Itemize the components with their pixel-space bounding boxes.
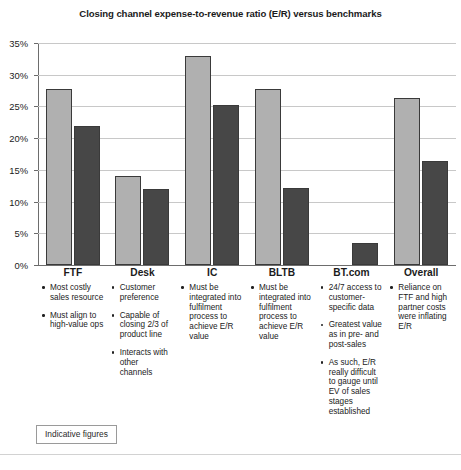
list-item: Must be integrated into fulfilment proce… xyxy=(251,283,313,342)
chart-plot-area: 0%5%10%15%20%25%30%35% xyxy=(0,43,461,265)
y-axis-tick-label: 35% xyxy=(9,39,28,48)
x-axis-label-bt-com: BT.com xyxy=(317,267,387,279)
list-item-label: Reliance on FTF and high partner costs w… xyxy=(398,283,452,332)
bar xyxy=(394,98,420,265)
list-item-label: Interacts with other channels xyxy=(120,348,174,377)
list-item-label: As such, E/R really difficult to gauge u… xyxy=(329,358,383,417)
bar xyxy=(74,126,100,265)
bottom-divider xyxy=(0,454,461,455)
bar xyxy=(255,89,281,265)
bullet-icon xyxy=(251,286,254,289)
x-axis-label-bltb: BLTB xyxy=(247,267,317,279)
bullet-icon xyxy=(112,351,115,354)
bar xyxy=(46,89,72,265)
list-item-label: Customer preference xyxy=(120,283,174,303)
list-item: Greatest value as in pre- and post-sales xyxy=(321,320,383,349)
bar xyxy=(143,189,169,265)
notes-column-ic: Must be integrated into fulfilment proce… xyxy=(181,283,243,350)
bar-group xyxy=(247,43,317,265)
y-axis-tick-label: 30% xyxy=(9,70,28,79)
x-axis-baseline xyxy=(38,265,456,266)
list-item: Capable of closing 2/3 of product line xyxy=(112,311,174,340)
bars-container xyxy=(38,43,456,265)
x-axis-label-ic: IC xyxy=(177,267,247,279)
y-axis-tick-label: 20% xyxy=(9,134,28,143)
list-item-label: Capable of closing 2/3 of product line xyxy=(120,311,174,340)
notes-column-desk: Customer preferenceCapable of closing 2/… xyxy=(112,283,174,385)
bullet-icon xyxy=(42,314,45,317)
bullet-icon xyxy=(321,361,324,364)
bullet-icon xyxy=(42,286,45,289)
bullet-icon xyxy=(321,324,324,327)
bar xyxy=(115,176,141,265)
bar xyxy=(422,161,448,265)
bullet-icon xyxy=(112,314,115,317)
indicative-figures-note: Indicative figures xyxy=(36,425,117,444)
bar xyxy=(213,105,239,265)
x-axis-label-desk: Desk xyxy=(108,267,178,279)
list-item: Interacts with other channels xyxy=(112,348,174,377)
bar-group xyxy=(38,43,108,265)
x-axis-label-overall: Overall xyxy=(386,267,456,279)
list-item: Must be integrated into fulfilment proce… xyxy=(181,283,243,342)
list-item-label: Most costly sales resource xyxy=(50,283,104,303)
page-title: Closing channel expense-to-revenue ratio… xyxy=(0,8,461,20)
list-item: As such, E/R really difficult to gauge u… xyxy=(321,358,383,417)
notes-column-ftf: Most costly sales resourceMust align to … xyxy=(42,283,104,338)
slide-canvas: Closing channel expense-to-revenue ratio… xyxy=(0,0,461,470)
list-item: 24/7 access to customer-specific data xyxy=(321,283,383,312)
bar-group xyxy=(108,43,178,265)
y-axis-tick-label: 5% xyxy=(14,229,28,238)
notes-column-bltb: Must be integrated into fulfilment proce… xyxy=(251,283,313,350)
x-axis-label-ftf: FTF xyxy=(38,267,108,279)
list-item: Customer preference xyxy=(112,283,174,303)
bullet-icon xyxy=(321,286,324,289)
y-axis-tick-label: 10% xyxy=(9,197,28,206)
bullet-icon xyxy=(112,286,115,289)
list-item-label: Greatest value as in pre- and post-sales xyxy=(329,320,383,349)
list-item: Must align to high-value ops xyxy=(42,311,104,331)
bar xyxy=(352,243,378,265)
list-item-label: Must be integrated into fulfilment proce… xyxy=(259,283,313,342)
list-item-label: 24/7 access to customer-specific data xyxy=(329,283,383,312)
x-axis-category-labels: FTFDeskICBLTBBT.comOverall xyxy=(38,267,456,281)
bar-group xyxy=(177,43,247,265)
notes-column-overall: Reliance on FTF and high partner costs w… xyxy=(390,283,452,340)
y-axis-tick-label: 25% xyxy=(9,102,28,111)
bar xyxy=(283,188,309,265)
bar xyxy=(185,56,211,265)
list-item: Most costly sales resource xyxy=(42,283,104,303)
notes-column-bt-com: 24/7 access to customer-specific dataGre… xyxy=(321,283,383,425)
y-axis: 0%5%10%15%20%25%30%35% xyxy=(0,43,34,265)
bar-group xyxy=(317,43,387,265)
bullet-icon xyxy=(181,286,184,289)
list-item-label: Must align to high-value ops xyxy=(50,311,104,331)
list-item-label: Must be integrated into fulfilment proce… xyxy=(189,283,243,342)
bar-group xyxy=(386,43,456,265)
bullet-icon xyxy=(390,286,393,289)
y-axis-tick-label: 0% xyxy=(14,261,28,270)
y-axis-tick-label: 15% xyxy=(9,165,28,174)
list-item: Reliance on FTF and high partner costs w… xyxy=(390,283,452,332)
